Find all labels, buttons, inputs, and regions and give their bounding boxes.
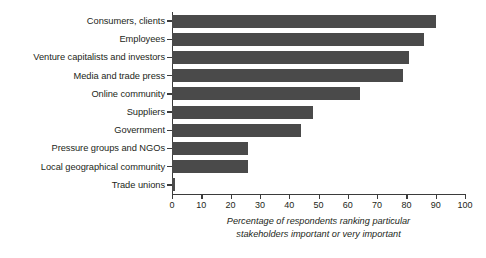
bar-row [172,121,465,139]
x-axis-tick-label: 90 [431,200,441,210]
x-axis-tick [172,194,173,199]
bar-row [172,12,465,30]
category-label: Trade unions [4,176,172,194]
bar [172,142,248,155]
bar-row [172,85,465,103]
x-axis-tick [465,194,466,199]
bar-row [172,103,465,121]
bar-row [172,158,465,176]
category-label: Pressure groups and NGOs [4,139,172,157]
x-axis-tick-label: 20 [226,200,236,210]
x-axis-tick-label: 10 [196,200,206,210]
category-label: Employees [4,30,172,48]
bar [172,33,424,46]
bar [172,160,248,173]
x-axis-tick [377,194,378,199]
category-label: Venture capitalists and investors [4,48,172,66]
x-axis-tick-label: 40 [284,200,294,210]
bar [172,178,175,191]
x-axis-tick-label: 50 [313,200,323,210]
bar [172,51,409,64]
x-axis-caption-line-1: Percentage of respondents ranking partic… [172,215,465,228]
x-axis-tick [201,194,202,199]
category-axis-labels: Consumers, clientsEmployeesVenture capit… [0,12,172,194]
x-axis-caption-line-2: stakeholders important or very important [172,228,465,241]
bar-row [172,139,465,157]
category-label: Suppliers [4,103,172,121]
x-axis-tick [406,194,407,199]
x-axis-tick-label: 30 [255,200,265,210]
bar-row [172,67,465,85]
x-axis-tick [319,194,320,199]
bar-row [172,176,465,194]
x-axis-tick [436,194,437,199]
bar-row [172,48,465,66]
category-label: Local geographical community [4,158,172,176]
category-label: Online community [4,85,172,103]
x-axis-tick [348,194,349,199]
bar [172,106,313,119]
bar [172,69,403,82]
category-label: Government [4,121,172,139]
category-label: Media and trade press [4,67,172,85]
bar [172,87,360,100]
x-axis-tick-label: 60 [343,200,353,210]
x-axis-tick-label: 0 [169,200,174,210]
category-label: Consumers, clients [4,12,172,30]
plot-area [172,12,465,194]
bar [172,15,436,28]
x-axis-tick [260,194,261,199]
x-axis-caption: Percentage of respondents ranking partic… [172,215,465,240]
bar [172,124,301,137]
x-axis-tick-label: 70 [372,200,382,210]
bar-row [172,30,465,48]
x-axis-tick-label: 100 [457,200,472,210]
x-axis-tick-label: 80 [401,200,411,210]
bar-chart: Consumers, clientsEmployeesVenture capit… [0,0,486,258]
x-axis-tick [289,194,290,199]
x-axis-tick [231,194,232,199]
